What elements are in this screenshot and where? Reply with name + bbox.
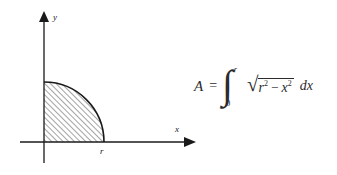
figure-page: y x r A = ∫ r 0 √ r2−x2 dx	[0, 0, 337, 175]
integral-upper-limit: r	[234, 65, 237, 74]
radicand: r2−x2	[258, 78, 294, 96]
minus-operator: −	[271, 80, 278, 95]
area-symbol: A	[194, 78, 203, 95]
area-integral-equation: A = ∫ r 0 √ r2−x2 dx	[194, 60, 337, 112]
radicand-second-term-exponent: 2	[288, 79, 292, 88]
square-root-expression: √ r2−x2	[247, 77, 294, 95]
shaded-region	[44, 82, 104, 142]
figure-canvas: y x r	[0, 0, 200, 175]
differential-dx: dx	[300, 78, 313, 94]
y-axis-arrowhead	[39, 11, 49, 22]
equation-row: A = ∫ r 0 √ r2−x2 dx	[194, 60, 337, 112]
x-axis-arrowhead	[184, 137, 196, 147]
integral-with-limits: ∫ r 0	[222, 63, 241, 109]
integral-lower-limit: 0	[226, 98, 230, 108]
equals-sign: =	[209, 78, 217, 94]
y-axis-label: y	[52, 12, 57, 22]
radicand-first-term-exponent: 2	[264, 79, 268, 88]
quarter-circle-figure: y x r	[0, 0, 200, 175]
x-tick-label-r: r	[100, 146, 104, 156]
x-axis-label: x	[174, 124, 179, 134]
